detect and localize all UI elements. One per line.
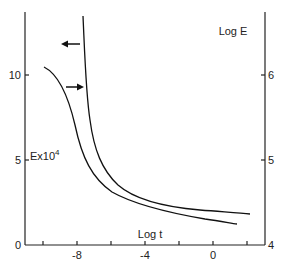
left-axis-label: Ex104 (30, 148, 60, 162)
arrow-right-icon (66, 84, 84, 91)
y2-tick-label: 4 (268, 239, 274, 251)
arrow-left-icon (61, 41, 80, 48)
y2-tick-label: 5 (268, 154, 274, 166)
series-log-e (44, 67, 237, 224)
right-axis-label: Log E (219, 25, 248, 37)
y-tick-label: 10 (9, 69, 21, 81)
x-tick-label: -8 (72, 249, 82, 261)
y-tick-label: 5 (15, 154, 21, 166)
x-axis-label: Log t (138, 228, 162, 240)
series-e-x10-4 (83, 16, 250, 214)
y2-tick-label: 6 (268, 69, 274, 81)
y-tick-label: 0 (15, 239, 21, 251)
x-tick-label: -4 (140, 249, 150, 261)
x-tick-label: 0 (210, 249, 216, 261)
chart: -8 -4 0 10 5 0 6 5 4 Ex104 Log E Log t (0, 0, 286, 266)
